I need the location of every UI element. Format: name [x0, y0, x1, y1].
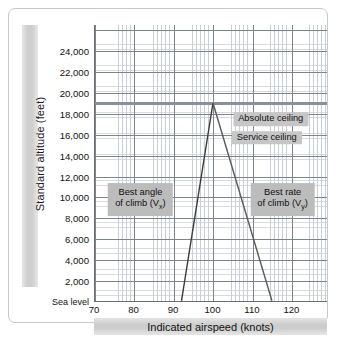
y-tick-label: 22,000 — [60, 67, 89, 78]
x-axis-tick-labels: 708090100110120 — [94, 304, 327, 317]
y-tick-label: 20,000 — [60, 87, 89, 98]
y-axis-tick-labels: 24,00022,00020,00018,00016,00014,00012,0… — [39, 25, 91, 302]
curve-vx — [182, 103, 213, 301]
x-tick-label: 110 — [244, 304, 259, 315]
best-rate-of-climb-box: Best rate of climb (Vy) — [250, 183, 315, 217]
x-tick-label: 100 — [204, 304, 220, 315]
x-axis-title: Indicated airspeed (knots) — [147, 321, 274, 333]
y-tick-label: 4,000 — [65, 255, 89, 266]
climb-performance-curves — [95, 25, 327, 301]
y-tick-label: 6,000 — [65, 234, 89, 245]
vy-tail: ) — [305, 198, 308, 208]
y-axis-title-band: Standard altitude (feet) — [22, 25, 38, 287]
vx-line1: Best angle — [118, 187, 162, 197]
absolute-ceiling-label: Absolute ceiling — [233, 112, 308, 126]
y-tick-label: Sea level — [52, 297, 89, 307]
vx-line2: of climb (V — [115, 198, 159, 208]
y-tick-label: 8,000 — [65, 213, 89, 224]
y-tick-label: 24,000 — [60, 46, 89, 57]
x-tick-label: 120 — [283, 304, 299, 315]
x-tick-label: 90 — [168, 304, 179, 315]
y-tick-label: 14,000 — [60, 150, 89, 161]
vx-tail: ) — [163, 198, 166, 208]
vy-line2: of climb (V — [257, 198, 301, 208]
plot-area: Absolute ceiling Service ceiling Best an… — [94, 25, 327, 302]
x-tick-label: 80 — [128, 304, 139, 315]
service-ceiling-label: Service ceiling — [232, 131, 302, 145]
x-axis-title-band: Indicated airspeed (knots) — [94, 318, 327, 335]
y-tick-label: 2,000 — [65, 276, 89, 287]
y-tick-label: 10,000 — [60, 192, 89, 203]
best-angle-of-climb-box: Best angle of climb (Vx) — [108, 183, 173, 217]
y-tick-label: 16,000 — [60, 129, 89, 140]
chart-figure: Standard altitude (feet) 24,00022,00020,… — [8, 8, 328, 323]
vy-line1: Best rate — [264, 187, 301, 197]
y-tick-label: 12,000 — [60, 171, 89, 182]
y-tick-label: 18,000 — [60, 108, 89, 119]
x-tick-label: 70 — [89, 304, 100, 315]
